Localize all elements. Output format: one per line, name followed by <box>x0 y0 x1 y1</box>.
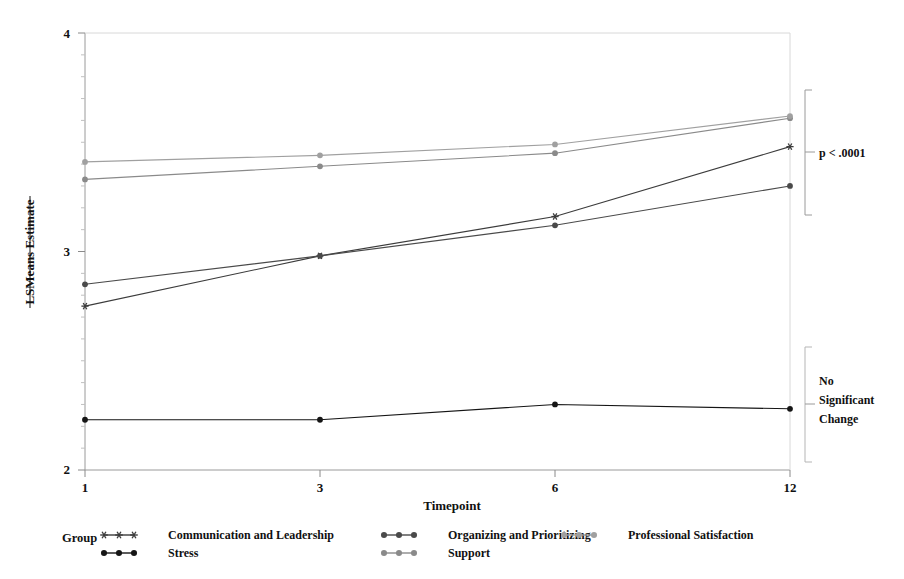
legend-title: Group <box>62 531 97 545</box>
x-tick-label-1: 1 <box>82 480 89 495</box>
circle-marker-icon <box>82 176 88 182</box>
circle-marker-icon <box>82 159 88 165</box>
circle-marker-icon <box>317 253 323 259</box>
chart-background <box>0 0 904 579</box>
y-tick-label-4: 4 <box>64 26 71 41</box>
circle-marker-icon <box>591 532 597 538</box>
no-change-annotation-line-3: Change <box>819 412 859 426</box>
no-change-annotation-line-1: No <box>819 374 834 388</box>
p-value-annotation-label: p < .0001 <box>819 146 866 160</box>
circle-marker-icon <box>787 183 793 189</box>
circle-marker-icon <box>317 152 323 158</box>
chart-figure: 4 3 2 LSMeans Estimate 1 3 6 12 Timepoin… <box>0 0 904 579</box>
circle-marker-icon <box>381 532 387 538</box>
circle-marker-icon <box>317 417 323 423</box>
x-tick-label-12: 12 <box>784 480 797 495</box>
circle-marker-icon <box>82 281 88 287</box>
circle-marker-icon <box>396 550 402 556</box>
circle-marker-icon <box>552 142 558 148</box>
circle-marker-icon <box>381 550 387 556</box>
circle-marker-icon <box>552 222 558 228</box>
no-change-annotation-line-2: Significant <box>819 393 874 407</box>
legend-entry-label: Professional Satisfaction <box>628 528 754 542</box>
x-axis-title: Timepoint <box>423 498 481 513</box>
circle-marker-icon <box>787 113 793 119</box>
circle-marker-icon <box>561 532 567 538</box>
circle-marker-icon <box>552 150 558 156</box>
circle-marker-icon <box>552 402 558 408</box>
circle-marker-icon <box>131 550 137 556</box>
y-tick-label-2: 2 <box>64 462 71 477</box>
lsmeans-line-chart: 4 3 2 LSMeans Estimate 1 3 6 12 Timepoin… <box>0 0 904 579</box>
x-tick-label-6: 6 <box>552 480 559 495</box>
circle-marker-icon <box>317 163 323 169</box>
circle-marker-icon <box>787 406 793 412</box>
circle-marker-icon <box>101 550 107 556</box>
circle-marker-icon <box>576 532 582 538</box>
circle-marker-icon <box>411 550 417 556</box>
circle-marker-icon <box>116 550 122 556</box>
circle-marker-icon <box>396 532 402 538</box>
circle-marker-icon <box>82 417 88 423</box>
circle-marker-icon <box>411 532 417 538</box>
y-tick-label-3: 3 <box>64 244 71 259</box>
legend-entry-label: Support <box>448 546 490 560</box>
x-tick-label-3: 3 <box>317 480 324 495</box>
legend-entry-label: Stress <box>168 546 199 560</box>
legend-entry-label: Communication and Leadership <box>168 528 334 542</box>
